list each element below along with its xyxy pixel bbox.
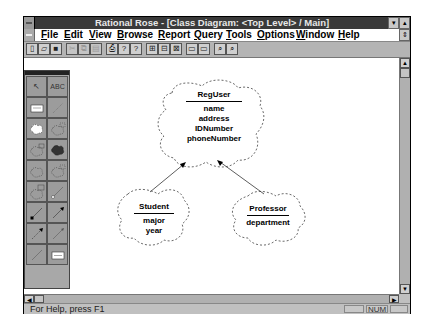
save-icon[interactable]: ■ <box>50 43 62 55</box>
scroll-up-button[interactable]: ▲ <box>400 58 410 68</box>
aggregation-line-icon <box>29 205 45 221</box>
menu-view-label: iew <box>96 29 112 40</box>
scroll-right-button[interactable]: ▶ <box>389 295 399 303</box>
metaclass-icon <box>29 184 45 200</box>
instantiates-line-icon <box>29 226 45 242</box>
instantiated-class-tool[interactable] <box>26 139 47 160</box>
print-icon[interactable]: ⎙ <box>106 43 118 55</box>
menu-browse-label: rowse <box>124 29 153 40</box>
class-attribute: IDNumber <box>174 124 254 134</box>
diagram-toolbox[interactable]: ↖ ABC <box>24 70 70 289</box>
browse-component-diagram-icon[interactable]: ⊠ <box>170 43 182 55</box>
menu-edit[interactable]: Edit <box>64 29 83 41</box>
class-attribute: year <box>128 226 180 236</box>
uses-line-icon <box>50 205 66 221</box>
menu-query[interactable]: Query <box>194 29 223 41</box>
menu-window-mnemonic: W <box>296 29 305 40</box>
metaclass-tool[interactable] <box>26 181 47 202</box>
instantiated-utility-tool[interactable] <box>47 160 68 181</box>
menu-tools[interactable]: Tools <box>226 29 252 41</box>
class-utility-tool[interactable] <box>47 139 68 160</box>
status-panel-caps <box>344 305 364 313</box>
scroll-down-button[interactable]: ▼ <box>400 284 410 294</box>
horizontal-scroll-thumb[interactable] <box>34 295 44 303</box>
help-icon[interactable]: ? <box>118 43 130 55</box>
student-arrowhead <box>180 162 186 168</box>
document-restore-button[interactable]: ⇕ <box>399 29 410 41</box>
zoom-in-icon[interactable]: ⌕ <box>214 43 226 55</box>
class-tool[interactable] <box>26 118 47 139</box>
category-icon <box>50 247 66 263</box>
anchor-line-icon <box>50 100 66 116</box>
class-student[interactable]: Student major year <box>128 202 180 236</box>
aggregation-tool[interactable] <box>26 202 47 223</box>
note-tool[interactable] <box>26 97 47 118</box>
menu-view[interactable]: View <box>89 29 112 41</box>
text-tool[interactable]: ABC <box>47 76 68 97</box>
selection-tool[interactable]: ↖ <box>26 76 47 97</box>
menu-tools-label: ools <box>231 29 252 40</box>
menu-options-label: ptions <box>265 29 295 40</box>
context-help-icon[interactable]: ? <box>130 43 142 55</box>
class-divider <box>247 215 289 216</box>
inherits-tool[interactable] <box>47 223 68 244</box>
parameterized-utility-icon <box>29 163 45 179</box>
title-bar[interactable]: Rational Rose - [Class Diagram: <Top Lev… <box>24 17 410 29</box>
class-professor[interactable]: Professor department <box>238 204 298 228</box>
anchor-note-tool[interactable] <box>47 97 68 118</box>
paste-icon[interactable]: ▤ <box>90 43 102 55</box>
diagram-canvas[interactable]: RegUser name address IDNumber phoneNumbe… <box>24 58 399 294</box>
browse-class-diagram-icon[interactable]: ⊞ <box>146 43 158 55</box>
menu-edit-label: dit <box>71 29 83 40</box>
association-tool[interactable] <box>47 181 68 202</box>
dependency-line-icon <box>29 247 45 263</box>
cut-icon[interactable]: ✂ <box>66 43 78 55</box>
menu-window-label: indow <box>305 29 334 40</box>
document-system-menu-icon[interactable] <box>24 29 35 41</box>
menu-report[interactable]: Report <box>158 29 190 41</box>
menu-query-mnemonic: Q <box>194 29 202 40</box>
menu-edit-mnemonic: E <box>64 29 71 40</box>
copy-icon[interactable]: ⧉ <box>78 43 90 55</box>
minimize-button[interactable]: ▾ <box>388 17 399 29</box>
professor-arrowhead <box>217 160 223 166</box>
menu-report-label: eport <box>165 29 190 40</box>
instantiates-tool[interactable] <box>26 223 47 244</box>
parameterized-class-icon <box>50 121 66 137</box>
scroll-left-button[interactable]: ◀ <box>24 295 34 303</box>
class-divider <box>186 101 242 102</box>
status-bar: For Help, press F1 NUM <box>24 303 410 314</box>
status-panel-scroll <box>390 305 408 313</box>
menu-help[interactable]: Help <box>338 29 360 41</box>
open-icon[interactable]: ▱ <box>38 43 50 55</box>
horizontal-scrollbar[interactable]: ◀ ▶ <box>24 294 399 303</box>
uses-tool[interactable] <box>47 202 68 223</box>
vertical-scroll-thumb[interactable] <box>400 68 410 78</box>
instantiated-class-icon <box>29 142 45 158</box>
class-name: Professor <box>238 204 298 213</box>
maximize-button[interactable]: ▴ <box>399 17 410 29</box>
browse-parent-icon[interactable]: ▭ <box>186 43 198 55</box>
menu-window[interactable]: Window <box>296 29 334 41</box>
class-divider <box>134 213 174 214</box>
vertical-scrollbar[interactable]: ▲ ▼ <box>399 58 410 294</box>
parameterized-class-tool[interactable] <box>47 118 68 139</box>
class-cloud-icon <box>29 121 45 137</box>
student-inherits-line <box>150 164 184 192</box>
menu-options[interactable]: Options <box>257 29 295 41</box>
system-menu-icon[interactable] <box>24 17 35 29</box>
menu-file[interactable]: File <box>41 29 58 41</box>
category-tool[interactable] <box>47 244 68 265</box>
parameterized-utility-tool[interactable] <box>26 160 47 181</box>
class-name: Student <box>128 202 180 211</box>
dependency-tool[interactable] <box>26 244 47 265</box>
professor-inherits-line <box>220 162 264 194</box>
class-reguser[interactable]: RegUser name address IDNumber phoneNumbe… <box>174 90 254 144</box>
new-icon[interactable]: ▯ <box>26 43 38 55</box>
zoom-out-icon[interactable]: ⌕ <box>226 43 238 55</box>
browse-previous-icon[interactable]: ▭ <box>198 43 210 55</box>
browse-interaction-diagram-icon[interactable]: ⊟ <box>158 43 170 55</box>
toolbox-titlebar[interactable] <box>25 71 69 75</box>
toolbar: ▯ ▱ ■ ✂ ⧉ ▤ ⎙ ? ? ⊞ ⊟ ⊠ ▭ ▭ ⌕ ⌕ <box>24 42 410 58</box>
menu-browse[interactable]: Browse <box>117 29 153 41</box>
